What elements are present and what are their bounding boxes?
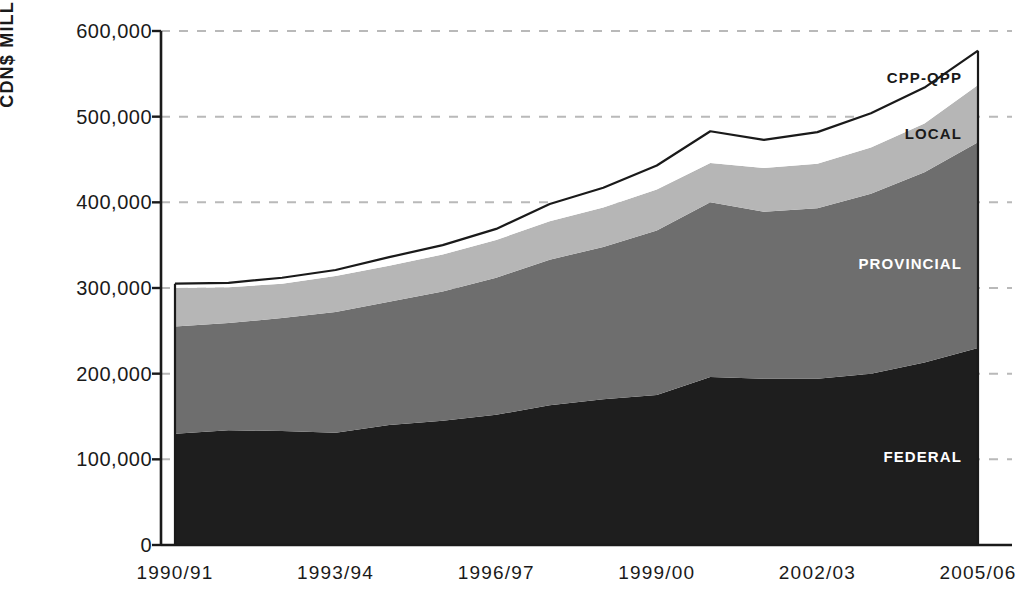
x-tick-label: 1990/91 bbox=[136, 562, 213, 584]
x-tick-label: 1996/97 bbox=[458, 562, 535, 584]
series-label-federal: FEDERAL bbox=[883, 448, 962, 465]
x-tick-label: 1999/00 bbox=[618, 562, 695, 584]
chart-container: CDN$ MILLIONS 600,000500,000400,000300,0… bbox=[0, 0, 1026, 608]
series-label-local: LOCAL bbox=[905, 125, 962, 142]
x-tick-label: 2005/06 bbox=[939, 562, 1016, 584]
series-label-cpp-qpp: CPP-QPP bbox=[887, 69, 962, 86]
x-tick-label: 1993/94 bbox=[297, 562, 374, 584]
series-label-provincial: PROVINCIAL bbox=[858, 255, 962, 272]
x-tick-label: 2002/03 bbox=[779, 562, 856, 584]
chart-plot-area bbox=[0, 0, 1026, 608]
